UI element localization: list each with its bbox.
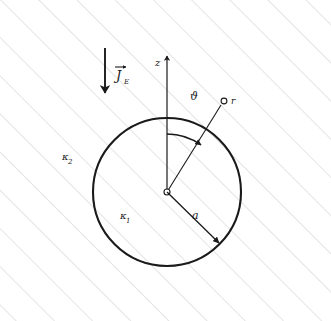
hatching-pattern xyxy=(0,0,331,321)
kappa-inner-subscript: 1 xyxy=(126,217,130,225)
field-point-label: r xyxy=(231,96,236,106)
diagram-canvas: J E z ϑ r κ 2 κ 1 a xyxy=(0,0,331,321)
kappa-outer-subscript: 2 xyxy=(67,158,73,166)
physics-diagram-figure: J E z ϑ r κ 2 κ 1 a xyxy=(0,0,331,321)
current-density-subscript: E xyxy=(123,78,129,86)
radius-label: a xyxy=(192,209,199,222)
field-point-marker xyxy=(221,98,227,104)
theta-label: ϑ xyxy=(190,90,198,103)
z-axis-label: z xyxy=(154,57,161,68)
